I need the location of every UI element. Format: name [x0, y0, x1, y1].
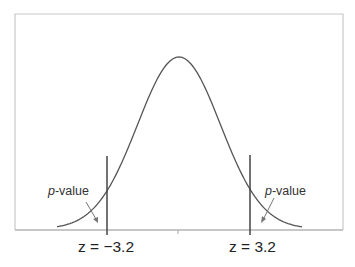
right-arrowhead-icon	[261, 216, 266, 223]
p-suffix: -value	[272, 184, 306, 198]
left-z-label: z = −3.2	[78, 238, 134, 255]
right-z-label: z = 3.2	[229, 238, 276, 255]
normal-curve	[57, 57, 302, 227]
p-italic: p	[47, 184, 55, 198]
p-suffix: -value	[55, 184, 89, 198]
left-p-value-label: p-value	[47, 184, 89, 198]
normal-distribution-diagram: p-value p-value z = −3.2 z = 3.2	[0, 0, 355, 267]
left-arrow-icon	[86, 202, 96, 219]
p-italic: p	[264, 184, 272, 198]
right-p-value-label: p-value	[264, 184, 306, 198]
